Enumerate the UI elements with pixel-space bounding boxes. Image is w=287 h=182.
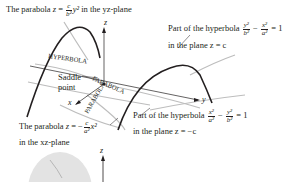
parabola-lower-tag: PARABOLA [83,81,106,115]
label-hyperbola-z-neg-c: Part of the hyperbola x²a² − y²b² = 1 [133,109,247,124]
x-axis-label: x [68,98,72,108]
y-axis-label: y [202,95,206,105]
z-axis-label-2: z [100,146,103,156]
label-parabola-yz: The parabola z = cb²y² in the yz-plane [6,3,132,18]
z-axis-label: z [104,18,107,28]
label-hyperbola-z-c: Part of the hyperbola y²b² − x²a² = 1 [168,22,282,37]
label-parabola-xz-line2: in the xz-plane [19,137,70,147]
saddle-point-label: Saddlepoint [58,72,81,92]
hyperbola-tag: HYPERBOLA [48,52,88,64]
label-hyperbola-z-c-line2: in the plane z = c [168,40,226,50]
label-parabola-xz: The parabola z = −ca²x² [19,120,97,135]
ellipsoid-shape [28,152,92,182]
label-hyperbola-z-neg-c-line2: in the plane z = −c [133,126,196,136]
